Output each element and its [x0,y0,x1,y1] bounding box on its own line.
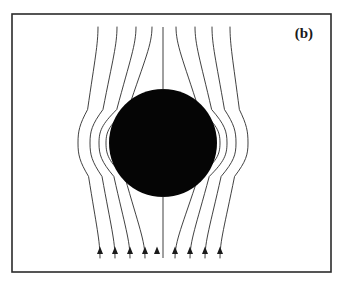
panel-label: (b) [295,25,313,42]
conducting-sphere [109,89,217,197]
figure-panel: (b) [0,0,343,284]
field-line-diagram: (b) [0,0,343,284]
